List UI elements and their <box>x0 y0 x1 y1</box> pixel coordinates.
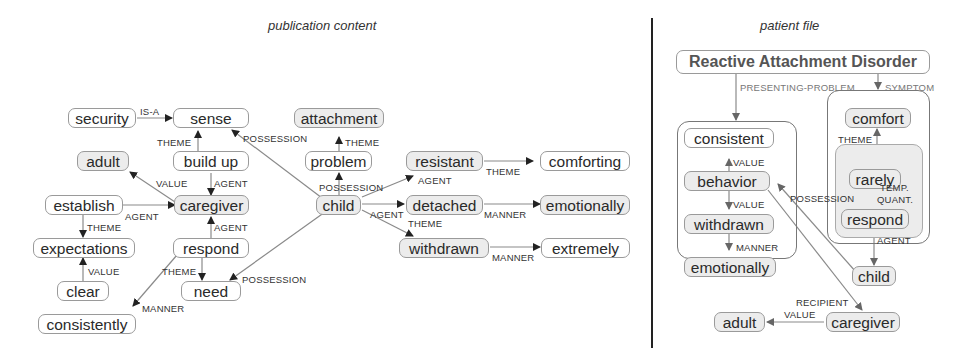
edge-label-agent-respond: AGENT <box>214 222 248 233</box>
edge-label-theme-comfort: THEME <box>838 134 872 145</box>
node-consistent[interactable]: consistent <box>684 128 774 148</box>
edge-label-symptom: SYMPTOM <box>885 82 934 93</box>
node-detached[interactable]: detached <box>406 195 483 215</box>
node-child[interactable]: child <box>316 195 361 215</box>
node-emotionally-right[interactable]: emotionally <box>684 257 776 277</box>
edge-label-agent-buildup: AGENT <box>214 178 248 189</box>
edge-label-possession-behavior: POSSESSION <box>790 193 854 204</box>
edge-label-isa: IS-A <box>140 106 159 117</box>
edge-label-possession-problem: POSSESSION <box>319 182 383 193</box>
edge-label-temp: TEMP. <box>880 182 909 193</box>
node-reactive-attachment-disorder[interactable]: Reactive Attachment Disorder <box>676 50 930 74</box>
node-respond-left[interactable]: respond <box>173 238 249 258</box>
edge-label-theme-buildup: THEME <box>157 137 191 148</box>
node-extremely[interactable]: extremely <box>541 238 630 258</box>
edge-label-theme-establish: THEME <box>87 222 121 233</box>
edge-label-manner-consistently: MANNER <box>142 303 184 314</box>
node-emotionally-left[interactable]: emotionally <box>540 195 630 215</box>
edge-label-manner-detached: MANNER <box>484 209 526 220</box>
node-comfort[interactable]: comfort <box>845 108 911 128</box>
edge-label-recipient: RECIPIENT <box>796 297 848 308</box>
edge-label-theme-need: THEME <box>162 266 196 277</box>
node-sense[interactable]: sense <box>173 108 249 128</box>
node-need[interactable]: need <box>181 281 241 301</box>
node-consistently[interactable]: consistently <box>38 314 136 334</box>
node-child-right[interactable]: child <box>852 266 896 286</box>
node-withdrawn-left[interactable]: withdrawn <box>399 238 489 258</box>
node-adult-right[interactable]: adult <box>714 312 765 332</box>
edge-label-possession-sense: POSSESSION <box>243 133 307 144</box>
edge-label-value-adult: VALUE <box>156 178 187 189</box>
node-attachment[interactable]: attachment <box>294 108 384 128</box>
node-resistant[interactable]: resistant <box>406 151 483 171</box>
node-establish[interactable]: establish <box>45 195 123 215</box>
node-adult[interactable]: adult <box>77 151 129 171</box>
edge-label-presenting-problem: PRESENTING-PROBLEM <box>740 82 855 93</box>
node-build-up[interactable]: build up <box>173 151 249 171</box>
edge-label-value-consistent: VALUE <box>733 157 764 168</box>
node-expectations[interactable]: expectations <box>33 238 135 258</box>
edge-label-quant: QUANT. <box>877 194 913 205</box>
node-behavior[interactable]: behavior <box>684 171 770 191</box>
edge-label-manner-emotionally: MANNER <box>736 242 778 253</box>
node-caregiver[interactable]: caregiver <box>174 195 249 215</box>
node-problem[interactable]: problem <box>305 151 372 171</box>
edge-label-value-adult-right: VALUE <box>784 309 815 320</box>
node-caregiver-right[interactable]: caregiver <box>826 312 900 332</box>
edge-label-theme-comforting: THEME <box>486 166 520 177</box>
edge-label-agent-detached: AGENT <box>370 209 404 220</box>
edge-label-agent-resistant: AGENT <box>418 175 452 186</box>
edge-label-agent-establish: AGENT <box>125 211 159 222</box>
edge-label-possession-need: POSSESSION <box>242 274 306 285</box>
edge-label-manner-withdrawn: MANNER <box>492 252 534 263</box>
node-security[interactable]: security <box>68 108 136 128</box>
edge-label-theme-attachment: THEME <box>345 137 379 148</box>
node-comforting[interactable]: comforting <box>540 151 630 171</box>
node-respond-right[interactable]: respond <box>841 209 909 229</box>
edge-label-value-withdrawn: VALUE <box>733 199 764 210</box>
edge-label-theme-withdrawn: THEME <box>408 218 442 229</box>
node-withdrawn-right[interactable]: withdrawn <box>684 214 774 234</box>
edge-label-value-clear: VALUE <box>88 266 119 277</box>
edge-label-agent-child: AGENT <box>877 235 911 246</box>
node-clear[interactable]: clear <box>57 281 109 301</box>
